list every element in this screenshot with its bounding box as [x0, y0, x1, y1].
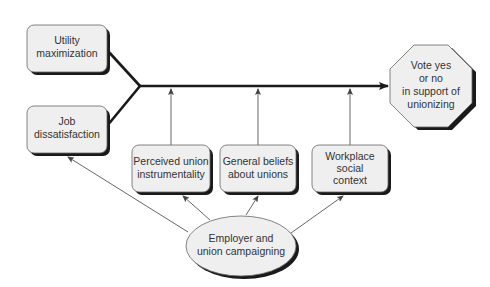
- node-label-line: Perceived union: [133, 155, 208, 167]
- node-label-line: context: [333, 174, 367, 186]
- node-vote-outcome: Vote yes or no in support of unionizing: [390, 45, 476, 130]
- node-label-line: Utility: [54, 34, 80, 46]
- node-label-line: Vote yes: [411, 59, 451, 71]
- node-label-line: dissatisfaction: [34, 128, 100, 140]
- edge-campaign-beliefs: [246, 196, 258, 215]
- node-label-line: about unions: [228, 168, 288, 180]
- main-connectors: [107, 50, 388, 126]
- moderator-connectors: [171, 89, 350, 145]
- node-job-dissatisfaction: Job dissatisfaction: [27, 106, 110, 156]
- node-label-line: in support of: [402, 85, 460, 97]
- node-employer-union-campaigning: Employer and union campaigning: [186, 216, 299, 279]
- node-label-line: instrumentality: [137, 168, 205, 180]
- node-label-line: maximization: [36, 47, 97, 59]
- node-label-line: unionizing: [407, 98, 454, 110]
- edge-campaign-workplace: [291, 196, 343, 233]
- node-label-line: Workplace: [325, 150, 375, 162]
- edge-job-junction: [107, 86, 140, 126]
- node-general-beliefs: General beliefs about unions: [220, 145, 299, 195]
- node-perceived-union-instrumentality: Perceived union instrumentality: [132, 145, 213, 195]
- node-workplace-social-context: Workplace social context: [312, 145, 391, 195]
- edge-utility-junction: [107, 50, 140, 86]
- node-utility-maximization: Utility maximization: [27, 25, 110, 75]
- node-label-line: social: [337, 162, 364, 174]
- node-label-line: Job: [59, 115, 76, 127]
- diagram-canvas: Utility maximization Job dissatisfaction…: [0, 0, 490, 287]
- node-label-line: Employer and: [209, 232, 274, 244]
- node-label-line: General beliefs: [223, 155, 294, 167]
- node-label-line: union campaigning: [197, 245, 285, 257]
- node-label-line: or no: [419, 72, 443, 84]
- edge-campaign-perceived: [183, 196, 210, 220]
